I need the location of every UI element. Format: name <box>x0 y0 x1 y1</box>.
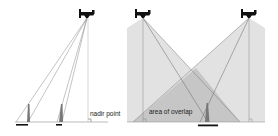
left-panel-relief-displacement: nadir point <box>15 9 121 126</box>
displacement-bar-1 <box>16 124 28 126</box>
right-panel-stereo-overlap: area of overlap <box>127 9 265 126</box>
nadir-angle-mark <box>88 119 91 122</box>
aircraft-left-icon <box>135 9 151 18</box>
displacement-bar-2 <box>56 124 62 126</box>
ray-tower2-base <box>62 18 87 122</box>
ray-tower1-base <box>28 18 87 122</box>
area-of-overlap-label: area of overlap <box>149 108 193 116</box>
nadir-point-label: nadir point <box>90 110 121 118</box>
aircraft-right-icon <box>241 9 257 18</box>
stereo-photo-diagram: nadir point area of overlap <box>0 0 278 136</box>
aircraft-icon <box>79 9 95 18</box>
tower-1 <box>27 104 30 122</box>
displacement-bar-3 <box>198 125 218 127</box>
ray-tower1-top <box>16 18 87 122</box>
